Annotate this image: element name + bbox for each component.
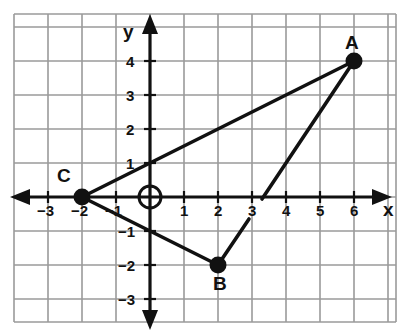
x-tick-label--2: −2: [71, 203, 88, 218]
y-axis-arrow-down: [142, 310, 158, 330]
y-axis-arrow-up: [142, 14, 158, 34]
x-tick-label-6: 6: [350, 203, 358, 218]
x-tick-label--3: −3: [37, 203, 54, 218]
segment-AB-upper: [262, 61, 354, 199]
x-tick-label-5: 5: [316, 203, 324, 218]
y-tick-label-1: 1: [126, 156, 134, 171]
x-tick-label-2: 2: [214, 203, 222, 218]
point-label-B: B: [213, 274, 227, 293]
point-A-marker: [346, 53, 363, 70]
y-tick-label--2: −2: [118, 258, 135, 273]
x-tick-label-4: 4: [282, 203, 290, 218]
point-label-A: A: [345, 33, 359, 52]
x-tick-label-1: 1: [180, 203, 188, 218]
point-label-C: C: [57, 166, 71, 185]
point-B-marker: [210, 257, 227, 274]
y-tick-label-4: 4: [126, 54, 134, 69]
x-tick-label--1: −1: [105, 203, 122, 218]
y-tick-label--1: −1: [118, 224, 135, 239]
axis-lines: [20, 24, 382, 316]
y-axis-label: y: [123, 22, 134, 41]
y-tick-label-2: 2: [126, 122, 134, 137]
x-axis-arrow-left: [10, 189, 30, 205]
tick-marks: [48, 61, 354, 299]
y-tick-label-3: 3: [126, 88, 134, 103]
grid-lines: [14, 14, 396, 322]
x-tick-label-3: 3: [248, 203, 256, 218]
x-axis-label: x: [383, 200, 394, 219]
y-tick-label--3: −3: [118, 292, 135, 307]
coordinate-plane-figure: −3 −2 −1 1 2 3 4 5 6 4 3 2 1 −1 −2 −3 x …: [0, 0, 409, 335]
